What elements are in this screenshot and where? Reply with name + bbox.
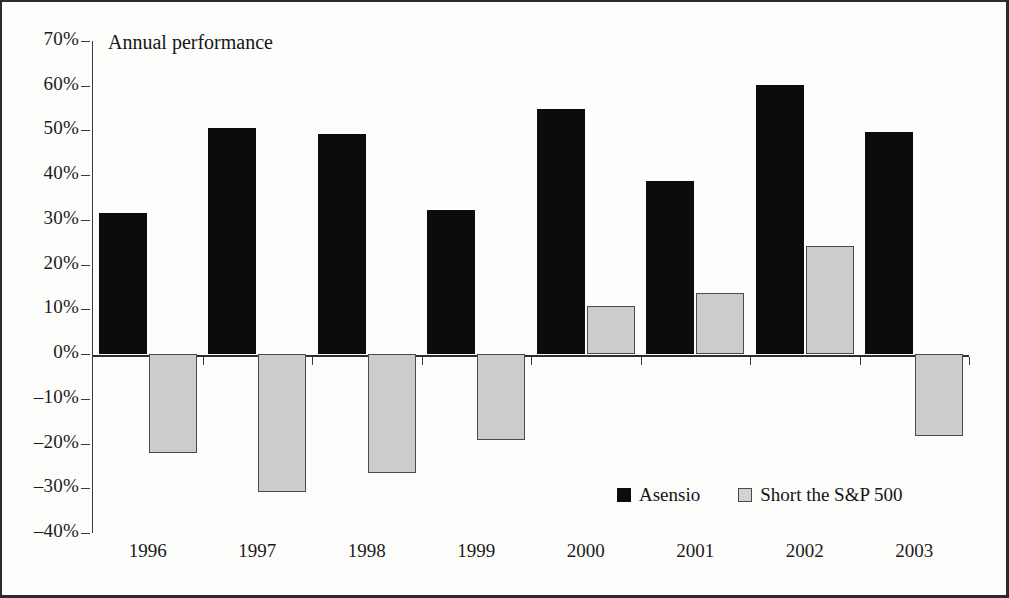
bar-2002-asensio xyxy=(756,85,804,354)
y-axis-tick-label: 40% xyxy=(44,162,79,184)
y-axis-tick-label: –40% xyxy=(34,520,79,542)
y-axis-tick-mark xyxy=(81,175,90,176)
y-axis-tick-label: 30% xyxy=(44,207,79,229)
y-axis-tick-label: 20% xyxy=(44,252,79,274)
bar-2001-asensio xyxy=(646,181,694,354)
x-axis-tick-label: 1997 xyxy=(203,540,313,562)
y-axis-tick-mark xyxy=(81,444,90,445)
legend-item-asensio: Asensio xyxy=(617,484,700,506)
x-axis-tick-label: 2003 xyxy=(860,540,970,562)
bar-2001-short-sp500 xyxy=(696,293,744,354)
y-axis-tick-label: 60% xyxy=(44,73,79,95)
x-axis-tick-label: 2002 xyxy=(750,540,860,562)
y-axis-tick-label: –10% xyxy=(34,386,79,408)
y-axis-tick-label: –30% xyxy=(34,475,79,497)
y-axis-tick-mark xyxy=(81,86,90,87)
legend-item-short-sp500: Short the S&P 500 xyxy=(738,484,902,506)
y-axis-tick-mark xyxy=(81,399,90,400)
y-axis-tick-mark xyxy=(81,488,90,489)
legend-label-asensio: Asensio xyxy=(639,484,700,506)
y-axis-tick-mark xyxy=(81,220,90,221)
bar-1997-short-sp500 xyxy=(258,354,306,492)
bar-2002-short-sp500 xyxy=(806,246,854,354)
chart-figure: Annual performance 70%60%50%40%30%20%10%… xyxy=(0,0,1009,598)
x-axis-tick-label: 1998 xyxy=(312,540,422,562)
x-axis-tick-mark xyxy=(860,357,861,365)
y-axis-tick-label: 70% xyxy=(44,28,79,50)
bar-2000-short-sp500 xyxy=(587,306,635,354)
x-axis-tick-label: 2001 xyxy=(641,540,751,562)
bar-1998-asensio xyxy=(318,134,366,355)
legend-swatch-asensio-icon xyxy=(617,488,631,502)
x-axis-tick-mark xyxy=(422,357,423,365)
x-axis-tick-label: 2000 xyxy=(531,540,641,562)
chart-title: Annual performance xyxy=(108,31,273,54)
y-axis-tick-label: 10% xyxy=(44,296,79,318)
bar-1997-asensio xyxy=(208,128,256,354)
bar-2003-short-sp500 xyxy=(915,354,963,436)
y-axis-line xyxy=(92,41,93,533)
legend-label-short-sp500: Short the S&P 500 xyxy=(760,484,902,506)
bar-2000-asensio xyxy=(537,109,585,354)
y-axis-tick-label: 50% xyxy=(44,117,79,139)
x-axis-tick-label: 1999 xyxy=(422,540,532,562)
bar-2003-asensio xyxy=(865,132,913,354)
bar-1999-asensio xyxy=(427,210,475,354)
y-axis-tick-mark xyxy=(81,130,90,131)
bar-1999-short-sp500 xyxy=(477,354,525,439)
x-axis-tick-mark xyxy=(312,357,313,365)
bar-1996-short-sp500 xyxy=(149,354,197,453)
y-axis-tick-mark xyxy=(81,309,90,310)
y-axis-tick-mark xyxy=(81,533,90,534)
x-axis-tick-mark xyxy=(969,357,970,365)
bar-1996-asensio xyxy=(99,213,147,354)
y-axis-tick-label: –20% xyxy=(34,431,79,453)
x-axis-tick-mark xyxy=(531,357,532,365)
bar-1998-short-sp500 xyxy=(368,354,416,473)
x-axis-tick-label: 1996 xyxy=(93,540,203,562)
y-axis-tick-label: 0% xyxy=(53,341,79,363)
page-border-top xyxy=(0,0,1009,2)
y-axis-tick-mark xyxy=(81,265,90,266)
page-border-left xyxy=(0,0,2,598)
x-axis-tick-mark xyxy=(203,357,204,365)
x-axis-tick-mark xyxy=(641,357,642,365)
legend-swatch-short-sp500-icon xyxy=(738,488,752,502)
y-axis-tick-mark xyxy=(81,354,90,355)
x-axis-tick-mark xyxy=(750,357,751,365)
chart-legend: Asensio Short the S&P 500 xyxy=(617,484,903,506)
y-axis-tick-mark xyxy=(81,41,90,42)
